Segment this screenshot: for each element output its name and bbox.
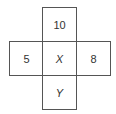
cell-top: 10 (42, 7, 77, 42)
cell-right: 8 (76, 41, 111, 76)
cell-bottom: Y (42, 75, 77, 110)
cell-center: X (42, 41, 77, 76)
cell-left: 5 (9, 41, 44, 76)
